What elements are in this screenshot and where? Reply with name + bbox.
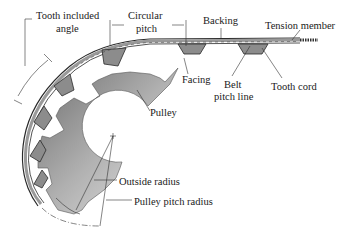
belt-pitch-line-leader	[232, 46, 250, 76]
facing-leader	[184, 58, 188, 74]
label-tension-member: Tension member	[265, 20, 336, 31]
label-pulley: Pulley	[150, 107, 178, 118]
label-pulley-pitch-radius: Pulley pitch radius	[134, 196, 213, 207]
label-facing: Facing	[182, 74, 211, 85]
belt-tooth	[34, 170, 48, 188]
label-tooth-angle-1: Tooth included	[36, 10, 100, 21]
belt-tooth	[238, 44, 268, 54]
label-circular-pitch-2: pitch	[136, 23, 158, 34]
label-tooth-angle-2: angle	[56, 23, 79, 34]
belt-tooth	[102, 48, 126, 66]
tooth-cord-leader	[262, 48, 282, 78]
tooth-angle-leader	[25, 19, 32, 66]
tooth-angle-arc	[18, 60, 48, 96]
label-outside-radius: Outside radius	[119, 176, 180, 187]
label-belt-pitch-2: pitch line	[214, 91, 254, 102]
timing-belt-diagram: Tooth included angle Circular pitch Back…	[0, 0, 347, 241]
label-backing: Backing	[203, 15, 239, 26]
belt-tooth	[178, 44, 206, 54]
label-tooth-cord: Tooth cord	[271, 81, 317, 92]
label-belt-pitch-1: Belt	[224, 79, 242, 90]
label-circular-pitch-1: Circular	[128, 10, 163, 21]
